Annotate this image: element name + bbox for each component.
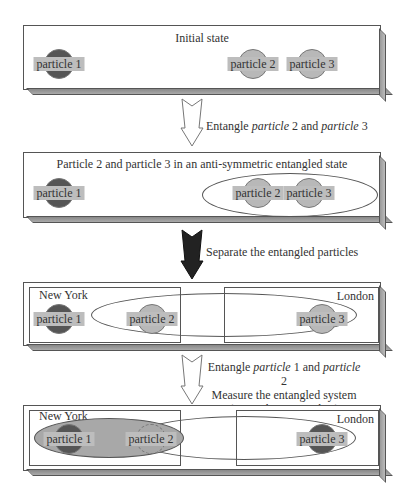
step-italic: particle (253, 360, 290, 374)
panel-depth-right (379, 28, 386, 102)
particle-label: particle 3 (297, 312, 348, 326)
hollow-arrow-icon (179, 98, 205, 148)
particle-label: particle 2 (228, 57, 279, 71)
particle-label: particle 2 (127, 312, 178, 326)
particle-1: particle 1 (44, 49, 74, 79)
hollow-arrow-icon (179, 354, 205, 406)
particle-label: particle 1 (34, 186, 85, 200)
panel-depth-bottom (26, 88, 393, 95)
particle-label: particle 1 (44, 432, 95, 446)
panel-depth-bottom (26, 469, 393, 476)
particle-label: particle 3 (297, 432, 348, 446)
step-text: 3 (359, 119, 368, 133)
step-text: 2 (281, 374, 287, 388)
step-text: Entangle (206, 119, 252, 133)
particle-label: particle 1 (34, 312, 85, 326)
city-label-london: London (337, 412, 374, 427)
step-text: 1 and (291, 360, 323, 374)
step-text: Entangle (208, 360, 254, 374)
step-italic: particle (321, 119, 358, 133)
particle-2: particle 2 (238, 49, 268, 79)
step-italic: particle (252, 119, 289, 133)
step-text: 2 and (289, 119, 321, 133)
particle-3: particle 3 (297, 49, 327, 79)
particle-label: particle 3 (287, 57, 338, 71)
panel-initial-state: Initial state particle 1 particle 2 part… (23, 25, 381, 90)
particle-label: particle 2 (126, 432, 177, 446)
particle-label: particle 3 (284, 186, 335, 200)
particle-label: particle 1 (34, 57, 85, 71)
solid-arrow-icon (179, 229, 205, 281)
step-line-2: Measure the entangled system (206, 388, 362, 402)
step-line-1: Entangle particle 1 and particle 2 (206, 360, 362, 388)
particle-3: particle 3 (307, 304, 337, 334)
particle-label: particle 2 (233, 186, 284, 200)
step-entangle-2-3: Entangle particle 2 and particle 3 (206, 119, 368, 133)
particle-1: particle 1 (54, 424, 84, 454)
particle-1: particle 1 (44, 304, 74, 334)
panel-title: Initial state (24, 31, 380, 46)
particle-2: particle 2 (137, 304, 167, 334)
city-label-london: London (337, 289, 374, 304)
particle-3: particle 3 (294, 178, 324, 208)
city-label-new-york: New York (39, 288, 88, 303)
panel-entangled-state: Particle 2 and particle 3 in an anti-sym… (23, 152, 381, 218)
panel-depth-right (379, 408, 386, 483)
panel-measured: New York London particle 1 particle 2 pa… (23, 405, 381, 471)
panel-depth-bottom (26, 216, 393, 223)
panel-separated: New York London particle 1 particle 2 pa… (23, 282, 381, 346)
panel-depth-bottom (26, 344, 393, 351)
particle-3: particle 3 (307, 424, 337, 454)
panel-depth-right (379, 285, 386, 358)
particle-2: particle 2 (136, 424, 166, 454)
step-separate: Separate the entangled particles (206, 245, 358, 259)
particle-1: particle 1 (44, 178, 74, 208)
particle-2: particle 2 (243, 178, 273, 208)
step-italic: particle (323, 360, 360, 374)
panel-title: Particle 2 and particle 3 in an anti-sym… (24, 157, 380, 172)
panel-depth-right (379, 155, 386, 230)
